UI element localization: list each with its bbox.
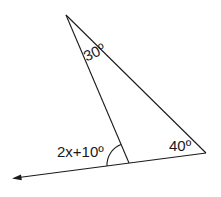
exterior-angle-label: 2x+10º: [57, 143, 104, 160]
apex-angle-label: 30º: [81, 39, 109, 64]
exterior-angle-arc: [107, 145, 121, 167]
base-ray-line: [15, 153, 206, 178]
arrowhead-icon: [12, 175, 22, 181]
triangle-diagram: 30º 40º 2x+10º: [0, 0, 221, 197]
left-side-line: [66, 15, 129, 163]
right-angle-label: 40º: [169, 137, 192, 154]
right-side-line: [66, 15, 206, 153]
